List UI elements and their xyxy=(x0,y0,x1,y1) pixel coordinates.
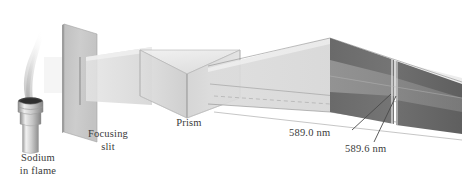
spectral-line-label-589-0: 589.0 nm xyxy=(289,127,330,140)
sodium-flame-source xyxy=(18,16,44,154)
source-caption: Sodium in flame xyxy=(2,152,74,177)
slit-caption-line2: slit xyxy=(72,141,144,154)
source-caption-line1: Sodium xyxy=(2,152,74,165)
slit-caption: Focusing slit xyxy=(72,128,144,153)
slit-plate-side-edge xyxy=(62,24,64,133)
source-caption-line2: in flame xyxy=(2,165,74,178)
spectral-line-label-589-6: 589.6 nm xyxy=(345,143,386,156)
prism-caption: Prism xyxy=(155,117,223,130)
slit-caption-line1: Focusing xyxy=(72,128,144,141)
spectroscopy-diagram: Sodium in flame Focusing slit Prism 589.… xyxy=(0,0,464,190)
projection-screen xyxy=(330,38,462,134)
burner-tube-icon xyxy=(23,124,39,154)
